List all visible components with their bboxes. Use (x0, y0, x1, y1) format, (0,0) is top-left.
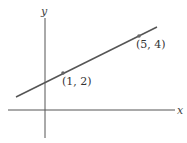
point-1-2-label: (1, 2) (62, 75, 92, 88)
y-axis-label: y (40, 5, 48, 18)
point-5-4-label: (5, 4) (136, 38, 166, 51)
x-axis-label: x (177, 104, 184, 117)
coordinate-plane: x y (1, 2) (5, 4) (0, 0, 187, 143)
